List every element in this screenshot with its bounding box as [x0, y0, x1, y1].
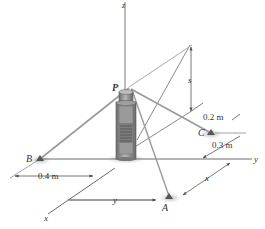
point-c-label: C: [198, 127, 205, 138]
c-offset-tick-1: [190, 103, 203, 112]
s-label: s: [188, 75, 192, 85]
cable-top-extension: [129, 45, 192, 87]
a-y-label: y: [112, 195, 117, 205]
pole: [116, 90, 136, 162]
figure: z y x P B C A s 0.2 m 0.3 m 0.4 m y x: [0, 0, 265, 229]
x-axis-label: x: [43, 213, 48, 223]
cable-pb: [40, 88, 129, 159]
c-offset-label: 0.2 m: [203, 112, 224, 122]
y-axis-label: y: [253, 154, 258, 164]
a-x-label: x: [204, 173, 209, 183]
b-offset-label: 0.4 m: [38, 171, 59, 181]
point-a-label: A: [161, 202, 169, 213]
c-reference-line: [130, 112, 190, 150]
diagram-canvas: z y x P B C A s 0.2 m 0.3 m 0.4 m y x: [0, 0, 265, 229]
b-x-reference: [10, 159, 40, 178]
cable-pa: [132, 90, 169, 196]
point-b-label: B: [26, 153, 32, 164]
c-offset-tick-2: [232, 114, 240, 120]
point-p-label: P: [112, 82, 119, 93]
c-to-y-axis-label: 0.3 m: [212, 140, 233, 150]
